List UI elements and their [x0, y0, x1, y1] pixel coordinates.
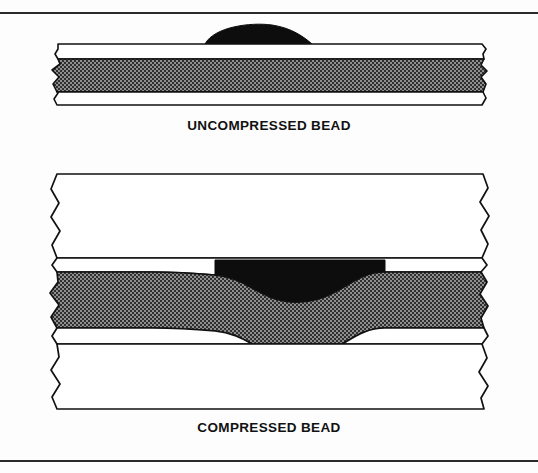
page-rule-top [0, 12, 538, 14]
upper-panel-uncompressed [55, 44, 486, 59]
upper-block-compressed [51, 174, 489, 258]
compressed-bead-drawing [0, 168, 538, 416]
bead-uncompressed-shape [205, 24, 312, 44]
uncompressed-bead-drawing [0, 18, 538, 114]
page-rule-bottom [0, 460, 538, 462]
caption-compressed-bead: COMPRESSED BEAD [0, 420, 538, 435]
figure-compressed-bead [0, 168, 538, 416]
figure-uncompressed-bead [0, 18, 538, 114]
lower-block-compressed [51, 344, 488, 409]
caption-uncompressed-bead: UNCOMPRESSED BEAD [0, 118, 538, 133]
core-layer-uncompressed [52, 59, 487, 92]
lower-panel-uncompressed [54, 92, 486, 105]
diagram-page: UNCOMPRESSED BEAD COMPRESSED BEAD [0, 0, 538, 473]
